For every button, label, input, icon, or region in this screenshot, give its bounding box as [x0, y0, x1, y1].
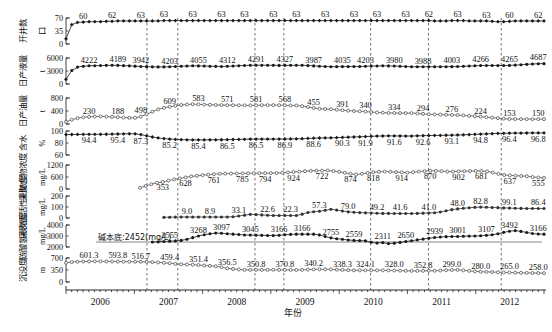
data-point [519, 271, 522, 274]
data-point [440, 170, 443, 173]
data-point [496, 117, 499, 120]
data-label: 63 [160, 10, 168, 19]
y-axis-unit-2: t [38, 109, 47, 112]
data-point [399, 112, 402, 115]
data-point [404, 112, 407, 115]
data-label: 3942 [132, 56, 149, 65]
data-point [243, 64, 246, 67]
data-point [422, 65, 425, 68]
data-label: 334 [388, 103, 401, 112]
data-point [133, 132, 137, 136]
panel-3: 608010094.495.487.385.285.486.586.586.98… [51, 127, 546, 160]
data-label: 2939 [426, 227, 443, 236]
data-point [537, 232, 540, 235]
data-point [116, 116, 119, 119]
data-point [415, 19, 419, 23]
data-point [364, 269, 367, 272]
data-point [398, 65, 401, 68]
data-point [422, 112, 425, 115]
data-point [168, 216, 171, 219]
data-point [347, 109, 350, 112]
data-label: 914 [395, 174, 408, 183]
data-point [266, 104, 269, 107]
data-point [347, 210, 350, 213]
data-point [389, 170, 392, 173]
data-point [329, 65, 332, 68]
data-label: 2311 [375, 232, 391, 241]
data-point [312, 106, 315, 109]
y-axis-title-6: 碳酸氢根浓度 [18, 211, 28, 260]
y-axis-title-3: 含水 [18, 134, 28, 151]
data-point [88, 260, 91, 263]
series-line-0 [66, 21, 544, 39]
data-point [456, 235, 459, 238]
data-point [281, 171, 284, 174]
data-point [364, 19, 368, 23]
data-point [197, 215, 200, 218]
data-point [514, 118, 517, 121]
data-point [139, 260, 142, 263]
data-point [364, 110, 367, 113]
data-point [82, 65, 85, 68]
data-point [381, 269, 384, 272]
data-label: 555 [532, 179, 545, 188]
data-label: 299.0 [442, 260, 461, 269]
data-point [162, 65, 165, 68]
data-point [519, 118, 522, 121]
y-axis-unit-0: 口 [38, 27, 47, 35]
data-label: 96.4 [502, 135, 517, 144]
data-point [473, 19, 477, 23]
data-point [496, 206, 499, 209]
data-point [387, 19, 391, 23]
data-point [301, 233, 304, 236]
data-point [352, 269, 355, 272]
data-point [324, 268, 327, 271]
data-label: 4003 [443, 56, 460, 65]
data-point [174, 19, 178, 23]
data-point [387, 212, 390, 215]
data-point [151, 110, 154, 113]
data-point [479, 234, 482, 237]
y-tick-label: 0 [59, 278, 63, 287]
data-point [306, 211, 309, 214]
x-tick-label-2009: 2009 [296, 297, 315, 307]
data-point [497, 172, 500, 175]
data-point [467, 19, 471, 23]
data-label: 93.1 [445, 137, 460, 146]
data-point [254, 213, 257, 216]
data-label: 924 [287, 174, 300, 183]
data-point [329, 236, 332, 239]
data-point [306, 268, 309, 271]
x-tick-label-2008: 2008 [227, 297, 246, 307]
data-point [226, 215, 229, 218]
data-label: 91.6 [387, 138, 402, 147]
data-point [191, 64, 194, 67]
data-point [485, 270, 488, 273]
data-point [162, 137, 166, 141]
data-point [70, 69, 73, 72]
data-point [249, 268, 252, 271]
data-label: 4189 [109, 55, 126, 64]
data-label: 230 [83, 107, 96, 116]
data-point [167, 179, 170, 182]
data-point [381, 19, 385, 23]
data-label: 2555 [161, 231, 178, 240]
y-tick-label: 100 [51, 127, 63, 136]
data-point [151, 65, 154, 68]
data-point [295, 268, 298, 271]
series-line-1 [66, 64, 544, 80]
data-point [278, 214, 281, 217]
data-label: 324.1 [356, 260, 375, 269]
data-label: 498 [135, 106, 148, 115]
data-point [468, 206, 471, 209]
data-point [412, 171, 415, 174]
data-point [360, 172, 363, 175]
data-point [416, 269, 419, 272]
data-point [283, 64, 286, 67]
data-label: 4265 [501, 55, 518, 64]
data-point [230, 172, 233, 175]
data-point [381, 241, 384, 244]
data-point [208, 138, 212, 142]
data-label: 609 [163, 97, 176, 106]
data-point [76, 21, 80, 25]
